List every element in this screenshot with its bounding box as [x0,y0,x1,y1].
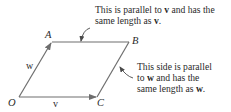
parallelogram-diagram: A B O C w v This is parallel to v and ha… [0,0,231,112]
point-label-b: B [132,35,138,46]
point-label-a: A [45,29,51,40]
vector-label-v: v [53,98,58,109]
side-bc [97,42,129,97]
point-label-o: O [8,97,16,108]
callout-arrow-top [81,28,90,41]
annotation-right: This side is parallel to w and has the s… [137,61,212,94]
vector-w-arrow [19,43,51,97]
callout-arrow-right [120,67,133,78]
point-label-c: C [97,97,104,108]
annotation-top: This is parallel to v and has the same l… [95,4,215,26]
vector-label-w: w [26,60,33,71]
